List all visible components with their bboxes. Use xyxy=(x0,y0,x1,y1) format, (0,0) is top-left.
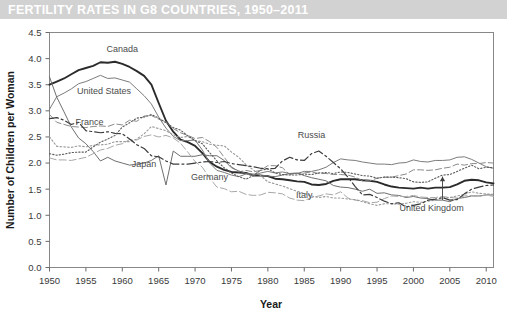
x-axis-ticks: 1950195519601965197019751980198519901995… xyxy=(39,268,497,286)
series-label-germany: Germany xyxy=(191,172,229,182)
x-tick-label: 1980 xyxy=(257,275,278,286)
y-axis-title: Number of Children per Woman xyxy=(4,71,16,229)
y-tick-label: 0.0 xyxy=(28,262,41,273)
y-tick-label: 4.0 xyxy=(28,53,41,64)
series-label-russia: Russia xyxy=(298,130,326,140)
x-tick-label: 1960 xyxy=(112,275,133,286)
y-tick-label: 1.0 xyxy=(28,210,41,221)
x-tick-label: 1985 xyxy=(294,275,315,286)
series-line-canada xyxy=(50,62,494,189)
series-label-japan: Japan xyxy=(132,159,157,169)
x-tick-label: 1990 xyxy=(330,275,351,286)
plot-frame xyxy=(50,33,494,268)
y-tick-label: 4.5 xyxy=(28,27,41,38)
y-tick-label: 3.5 xyxy=(28,79,41,90)
fertility-line-chart: 0.00.51.01.52.02.53.03.54.04.5 195019551… xyxy=(0,19,507,316)
x-tick-label: 1970 xyxy=(185,275,206,286)
x-tick-label: 1975 xyxy=(221,275,242,286)
series-label-france: France xyxy=(76,117,104,127)
series-lines xyxy=(50,62,494,207)
x-tick-label: 1995 xyxy=(366,275,387,286)
y-tick-label: 2.0 xyxy=(28,157,41,168)
x-tick-label: 2000 xyxy=(403,275,424,286)
chart-title: FERTILITY RATES IN G8 COUNTRIES, 1950–20… xyxy=(8,2,308,18)
label-arrow-head-icon xyxy=(440,177,445,182)
series-label-united-kingdom: United Kingdom xyxy=(400,203,464,213)
x-tick-label: 2010 xyxy=(476,275,497,286)
y-tick-label: 3.0 xyxy=(28,105,41,116)
y-tick-label: 2.5 xyxy=(28,131,41,142)
x-tick-label: 1965 xyxy=(148,275,169,286)
y-tick-label: 1.5 xyxy=(28,184,41,195)
x-tick-label: 2005 xyxy=(439,275,460,286)
series-label-canada: Canada xyxy=(107,44,139,54)
y-tick-label: 0.5 xyxy=(28,236,41,247)
y-axis-ticks: 0.00.51.01.52.02.53.03.54.04.5 xyxy=(28,27,49,273)
chart-figure: FERTILITY RATES IN G8 COUNTRIES, 1950–20… xyxy=(0,0,507,316)
x-tick-label: 1955 xyxy=(75,275,96,286)
x-tick-label: 1950 xyxy=(39,275,60,286)
series-label-italy: Italy xyxy=(296,190,313,200)
x-axis-title: Year xyxy=(260,298,282,310)
series-label-united-states: United States xyxy=(77,86,132,96)
